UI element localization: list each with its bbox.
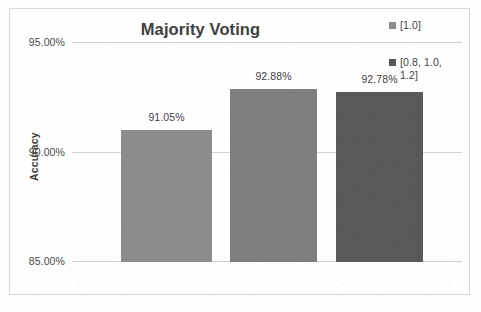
y-tick-label-90: 90.00%: [29, 146, 65, 158]
legend-label-2-line2: 1.2]: [400, 69, 418, 81]
y-tick-label-85: 85.00%: [29, 255, 65, 267]
scanned-page-background: Majority Voting Accuracy 95.00% 90.00% 8…: [0, 0, 481, 312]
bar-value-label-2: 92.88%: [255, 70, 291, 82]
legend-swatch-icon-1: [389, 22, 396, 29]
legend-item-1[interactable]: [1.0]: [389, 19, 463, 32]
legend-label-1: [1.0]: [400, 19, 421, 32]
chart-legend: [1.0] [0.8, 1.0, 1.2]: [389, 19, 463, 106]
bar-3[interactable]: 92.78%: [336, 92, 423, 262]
legend-swatch-icon-2: [389, 59, 396, 66]
y-tick-label-95: 95.00%: [29, 36, 65, 48]
legend-label-2: [0.8, 1.0, 1.2]: [400, 56, 442, 82]
bar-2[interactable]: 92.88%: [230, 89, 317, 262]
bar-1[interactable]: 91.05%: [121, 130, 212, 262]
bar-value-label-1: 91.05%: [148, 111, 184, 123]
chart-frame: Majority Voting Accuracy 95.00% 90.00% 8…: [9, 8, 470, 295]
legend-item-2[interactable]: [0.8, 1.0, 1.2]: [389, 56, 463, 82]
legend-label-2-line1: [0.8, 1.0,: [400, 56, 442, 68]
